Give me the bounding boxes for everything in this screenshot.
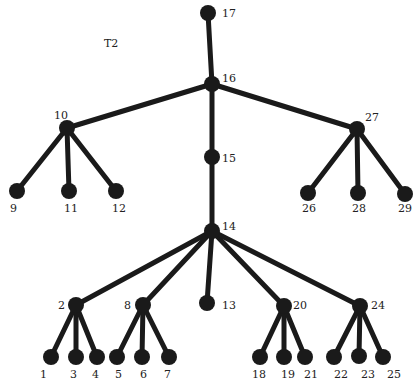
node-label-27: 27 (365, 111, 379, 124)
edge-14-24 (212, 231, 360, 306)
node-7 (161, 349, 177, 365)
node-21 (297, 349, 313, 365)
node-27 (349, 121, 365, 137)
node-1 (43, 349, 59, 365)
edge-20-21 (284, 306, 305, 357)
edge-14-13 (207, 231, 212, 303)
edge-20-18 (260, 306, 284, 357)
node-28 (350, 185, 366, 201)
node-label-14: 14 (222, 220, 236, 233)
tree-diagram: T2 1716151410279111226282928132024134567… (0, 0, 417, 389)
node-14 (204, 223, 220, 239)
node-18 (252, 349, 268, 365)
edge-2-1 (51, 305, 76, 357)
node-label-9: 9 (10, 202, 17, 215)
node-label-15: 15 (222, 152, 236, 165)
node-label-13: 13 (222, 299, 236, 312)
edge-16-27 (212, 84, 357, 129)
node-label-22: 22 (334, 368, 348, 381)
node-15 (204, 149, 220, 165)
edge-10-11 (67, 128, 69, 191)
node-26 (300, 185, 316, 201)
node-label-12: 12 (112, 202, 126, 215)
edge-14-20 (212, 231, 284, 306)
edge-8-7 (143, 305, 169, 357)
node-label-3: 3 (70, 368, 77, 381)
node-label-5: 5 (115, 368, 122, 381)
node-label-7: 7 (164, 368, 171, 381)
node-label-24: 24 (371, 299, 385, 312)
node-label-19: 19 (281, 368, 295, 381)
edge-27-29 (357, 129, 405, 194)
node-label-28: 28 (352, 202, 366, 215)
node-11 (61, 183, 77, 199)
edge-8-5 (117, 305, 143, 357)
edge-27-28 (357, 129, 358, 193)
edge-10-9 (17, 128, 67, 191)
node-9 (9, 183, 25, 199)
edge-14-8 (143, 231, 212, 305)
node-label-17: 17 (222, 7, 236, 20)
node-label-29: 29 (398, 202, 412, 215)
node-label-4: 4 (92, 368, 99, 381)
edge-17-16 (208, 13, 212, 84)
node-6 (134, 349, 150, 365)
node-label-26: 26 (302, 202, 316, 215)
node-label-8: 8 (124, 299, 131, 312)
edge-2-4 (76, 305, 97, 357)
node-label-11: 11 (64, 202, 78, 215)
node-20 (276, 298, 292, 314)
edge-14-2 (76, 231, 212, 305)
node-label-25: 25 (387, 368, 401, 381)
node-label-23: 23 (361, 368, 375, 381)
node-25 (375, 349, 391, 365)
node-16 (204, 76, 220, 92)
node-12 (108, 183, 124, 199)
node-label-16: 16 (222, 72, 236, 85)
node-label-18: 18 (252, 368, 266, 381)
node-24 (352, 298, 368, 314)
edge-27-26 (308, 129, 357, 193)
diagram-title: T2 (104, 37, 118, 50)
node-3 (68, 349, 84, 365)
node-29 (397, 186, 413, 202)
node-label-2: 2 (58, 299, 65, 312)
node-label-20: 20 (293, 299, 307, 312)
node-5 (109, 349, 125, 365)
node-4 (89, 349, 105, 365)
node-2 (68, 297, 84, 313)
node-17 (200, 5, 216, 21)
edge-24-25 (360, 306, 383, 357)
node-label-6: 6 (140, 368, 147, 381)
edge-16-10 (67, 84, 212, 128)
node-13 (199, 295, 215, 311)
node-8 (135, 297, 151, 313)
node-19 (276, 349, 292, 365)
node-label-21: 21 (304, 368, 318, 381)
node-23 (351, 348, 367, 364)
edge-10-12 (67, 128, 116, 191)
node-label-10: 10 (54, 109, 68, 122)
node-10 (59, 120, 75, 136)
node-label-1: 1 (40, 368, 47, 381)
node-22 (326, 349, 342, 365)
